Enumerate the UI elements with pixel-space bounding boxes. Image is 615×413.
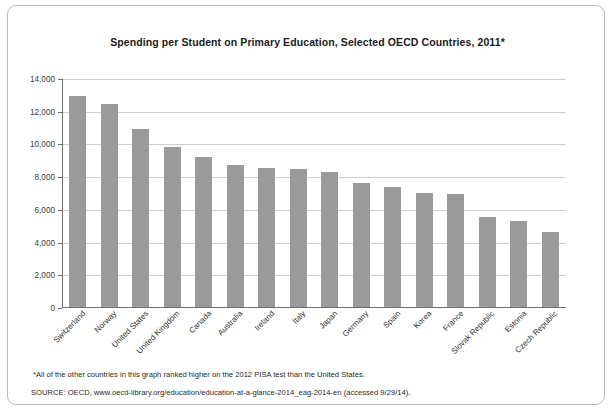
chart-page: Spending per Student on Primary Educatio… [0,0,615,413]
plot-area: 14,00012,00010,0008,0006,0004,0002,0000 [62,79,566,308]
chart-title: Spending per Student on Primary Educatio… [0,36,615,48]
y-axis-tick-label: 6,000 [35,205,56,214]
chart-footnote: *All of the other countries in this grap… [33,370,365,379]
axis-lines [62,79,566,308]
y-axis-tick-label: 4,000 [35,238,56,247]
y-axis-tick-label: 10,000 [30,140,55,149]
x-axis-labels: SwitzerlandNorwayUnited StatesUnited Kin… [62,309,566,369]
chart-source: SOURCE: OECD, www.oecd-library.org/educa… [31,388,410,397]
y-axis-tick-label: 8,000 [35,173,56,182]
y-axis-tick-label: 12,000 [30,107,55,116]
y-axis-tick-label: 2,000 [35,271,56,280]
y-axis-tick-label: 14,000 [30,75,55,84]
y-axis-tick-label: 0 [50,304,55,313]
